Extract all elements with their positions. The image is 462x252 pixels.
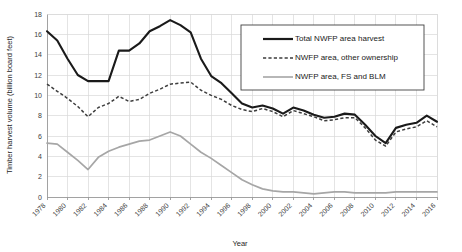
series-line-fs-and-blm [47, 132, 437, 194]
x-tick-label: 2000 [257, 202, 273, 218]
y-tick-label: 4 [38, 153, 42, 160]
legend-label-other-ownership: NWFP area, other ownership [295, 53, 399, 62]
y-tick-label: 8 [38, 112, 42, 119]
y-tick-label: 6 [38, 133, 42, 140]
y-axis-title: Timber harvest volume (billion board fee… [5, 35, 14, 174]
x-tick-label: 2010 [359, 202, 375, 218]
y-tick-labels: 024681012141618 [34, 11, 42, 201]
x-tick-label: 1992 [174, 202, 190, 218]
x-tick-label: 1998 [236, 202, 252, 218]
x-tick-label: 2016 [421, 202, 437, 218]
x-tick-label: 1984 [92, 202, 108, 218]
x-tick-label: 2012 [380, 202, 396, 218]
x-tick-label: 1996 [215, 202, 231, 218]
y-tick-label: 12 [34, 72, 42, 79]
x-tick-label: 1986 [113, 202, 129, 218]
x-tick-label: 1982 [72, 202, 88, 218]
timber-harvest-line-chart: 024681012141618 197819801982198419861988… [0, 0, 462, 252]
y-tick-label: 0 [38, 194, 42, 201]
x-tick-label: 2008 [339, 202, 355, 218]
legend-label-fs-and-blm: NWFP area, FS and BLM [295, 72, 386, 81]
x-tick-label: 1990 [154, 202, 170, 218]
y-tick-label: 18 [34, 11, 42, 18]
x-tick-label: 1978 [31, 202, 47, 218]
chart-legend: Total NWFP area harvestNWFP area, other … [241, 25, 424, 90]
y-tick-label: 16 [34, 31, 42, 38]
x-tick-label: 2004 [298, 202, 314, 218]
x-tick-label: 1988 [133, 202, 149, 218]
y-tick-label: 10 [34, 92, 42, 99]
x-tick-labels: 1978198019821984198619881990199219941996… [31, 202, 437, 218]
x-tick-label: 2002 [277, 202, 293, 218]
x-tick-label: 2014 [400, 202, 416, 218]
x-axis-title: Year [232, 239, 248, 248]
x-tick-label: 2006 [318, 202, 334, 218]
legend-label-total-nwfp-harvest: Total NWFP area harvest [295, 34, 385, 43]
chart-canvas: 024681012141618 197819801982198419861988… [0, 0, 462, 252]
y-tick-label: 2 [38, 173, 42, 180]
y-tick-label: 14 [34, 51, 42, 58]
x-tick-label: 1980 [51, 202, 67, 218]
series-line-other-ownership [47, 82, 437, 146]
x-tick-label: 1994 [195, 202, 211, 218]
